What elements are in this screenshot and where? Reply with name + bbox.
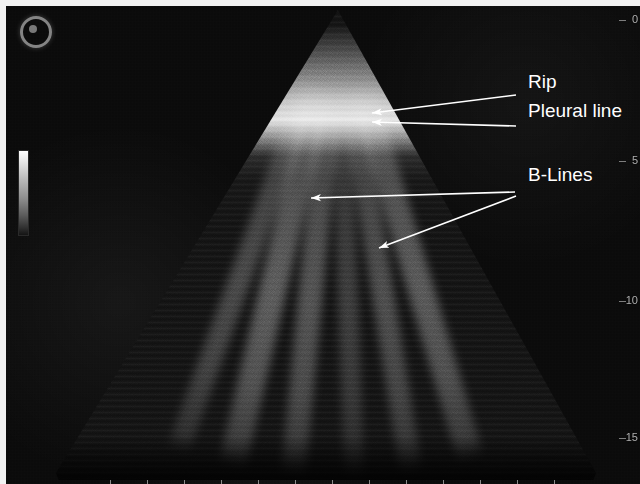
depth-label: 10 xyxy=(626,295,638,306)
ruler-tick xyxy=(147,480,148,484)
ruler-tick xyxy=(295,480,296,484)
ruler-tick xyxy=(221,480,222,484)
deep-field-shadow xyxy=(56,436,596,480)
depth-scale: 051015 xyxy=(606,6,640,484)
ruler-tick xyxy=(443,480,444,484)
depth-label: 0 xyxy=(632,14,638,25)
ruler-tick xyxy=(332,480,333,484)
depth-tick xyxy=(619,20,626,21)
ruler-tick xyxy=(406,480,407,484)
ruler-tick xyxy=(184,480,185,484)
depth-label: 5 xyxy=(632,155,638,166)
ultrasound-screen: 051015 RipPleural lineB-Lines xyxy=(0,0,640,484)
ruler-tick xyxy=(554,480,555,484)
speckle-texture xyxy=(56,10,596,480)
ruler-tick xyxy=(480,480,481,484)
ruler-tick xyxy=(517,480,518,484)
ruler-tick xyxy=(369,480,370,484)
ruler-tick xyxy=(258,480,259,484)
manufacturer-logo-icon xyxy=(20,16,52,48)
depth-tick xyxy=(619,161,626,162)
ruler-tick xyxy=(110,480,111,484)
ultrasound-image: 051015 xyxy=(6,6,640,484)
depth-label: 15 xyxy=(626,432,638,443)
sector-fan xyxy=(56,10,596,480)
grayscale-gain-bar[interactable] xyxy=(18,150,29,236)
sector-fan-container xyxy=(6,6,640,484)
